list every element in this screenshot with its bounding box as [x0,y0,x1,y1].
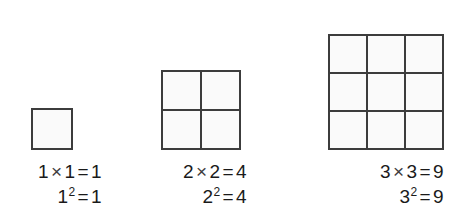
power-equals-sign-2: = [221,186,237,207]
unit-square-cell [330,36,366,72]
power-result-3: 9 [433,186,444,207]
power-equals-sign-1: = [76,186,92,207]
unit-square-cell [330,112,366,148]
unit-square-cell [368,36,404,72]
product-caption-1: 1×1=1 [12,159,102,184]
unit-square-cell [368,112,404,148]
square-grid-1 [31,108,73,150]
grid-wrapper-1 [31,108,73,150]
square-numbers-diagram: 1×1=1 12=1 2×2=4 22=4 3×3=9 [0,0,472,217]
equals-sign-2: = [221,161,237,182]
unit-square-cell [202,72,239,109]
power-result-1: 1 [91,186,102,207]
product-right-operand-2: 2 [210,161,221,182]
power-base-3: 3 [399,186,410,207]
power-equals-sign-3: = [418,186,434,207]
product-left-operand-1: 1 [38,161,49,182]
square-grid-2 [161,70,241,150]
equals-sign-3: = [418,161,434,182]
unit-square-cell [163,72,200,109]
product-result-3: 9 [433,161,444,182]
product-right-operand-3: 3 [407,161,418,182]
power-caption-1: 12=1 [12,184,102,209]
product-left-operand-3: 3 [380,161,391,182]
unit-square-cell [163,111,200,148]
caption-block-3: 3×3=9 32=9 [328,159,444,209]
unit-square-cell [406,74,442,110]
product-result-1: 1 [91,161,102,182]
product-caption-2: 2×2=4 [155,159,247,184]
equals-sign-1: = [76,161,92,182]
square-grid-3 [328,34,444,150]
caption-block-1: 1×1=1 12=1 [12,159,102,209]
power-base-2: 2 [202,186,213,207]
caption-block-2: 2×2=4 22=4 [155,159,247,209]
unit-square-cell [368,74,404,110]
power-exponent-1: 2 [68,185,75,199]
power-result-2: 4 [236,186,247,207]
grid-wrapper-2 [161,70,241,150]
product-result-2: 4 [236,161,247,182]
unit-square-cell [33,110,71,148]
power-caption-2: 22=4 [155,184,247,209]
unit-square-cell [406,112,442,148]
multiplication-sign-icon-1: × [49,161,65,182]
product-left-operand-2: 2 [183,161,194,182]
product-right-operand-1: 1 [65,161,76,182]
power-caption-3: 32=9 [328,184,444,209]
multiplication-sign-icon-3: × [391,161,407,182]
unit-square-cell [330,74,366,110]
grid-wrapper-3 [328,34,444,150]
unit-square-cell [406,36,442,72]
unit-square-cell [202,111,239,148]
power-exponent-3: 2 [410,185,417,199]
power-base-1: 1 [57,186,68,207]
product-caption-3: 3×3=9 [328,159,444,184]
multiplication-sign-icon-2: × [194,161,210,182]
power-exponent-2: 2 [213,185,220,199]
